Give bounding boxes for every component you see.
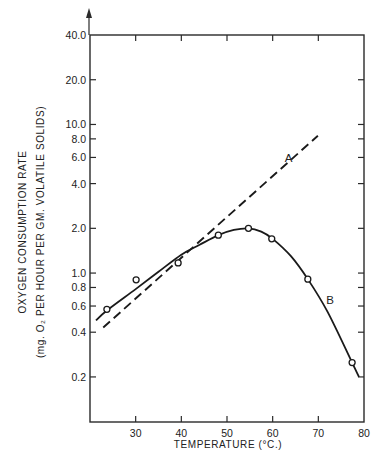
y-tick-label: 6.0 [71,151,86,163]
data-point [215,232,221,238]
data-point [175,260,181,266]
series-b-curve [96,228,359,377]
y-axis-title-line2: (mg. O₂ PER HOUR PER GM. VOLATILE SOLIDS… [35,106,46,358]
y-axis-ticks: 40.020.010.08.06.04.02.01.00.80.60.40.2 [66,29,364,383]
y-axis-title-line1: OXYGEN CONSUMPTION RATE [17,150,28,313]
data-point [305,276,311,282]
y-tick-label: 40.0 [66,29,87,41]
x-tick-label: 60 [267,427,279,439]
chart: 304050607080 40.020.010.08.06.04.02.01.0… [0,0,385,460]
series-b-label: B [326,294,334,306]
x-tick-label: 50 [221,427,233,439]
series-a-dashed-line [103,136,318,328]
y-tick-label: 8.0 [71,133,86,145]
y-tick-label: 0.2 [71,371,86,383]
x-tick-label: 80 [358,427,370,439]
series-a-label: A [285,152,293,164]
data-point [269,236,275,242]
x-tick-label: 30 [130,427,142,439]
plot-frame [90,35,364,422]
y-tick-label: 0.6 [71,300,86,312]
y-tick-label: 1.0 [71,267,86,279]
y-tick-label: 2.0 [71,222,86,234]
y-tick-label: 4.0 [71,178,86,190]
y-axis-arrow-icon [86,8,92,18]
data-point [245,225,251,231]
data-point [133,277,139,283]
x-axis-ticks: 304050607080 [130,35,370,439]
y-tick-label: 10.0 [66,118,87,130]
y-tick-label: 0.8 [71,281,86,293]
y-tick-label: 20.0 [66,74,87,86]
data-point [349,360,355,366]
x-axis-title: TEMPERATURE (°C.) [174,439,282,450]
x-tick-label: 40 [175,427,187,439]
data-point [104,306,110,312]
x-tick-label: 70 [312,427,324,439]
y-tick-label: 0.4 [71,326,86,338]
